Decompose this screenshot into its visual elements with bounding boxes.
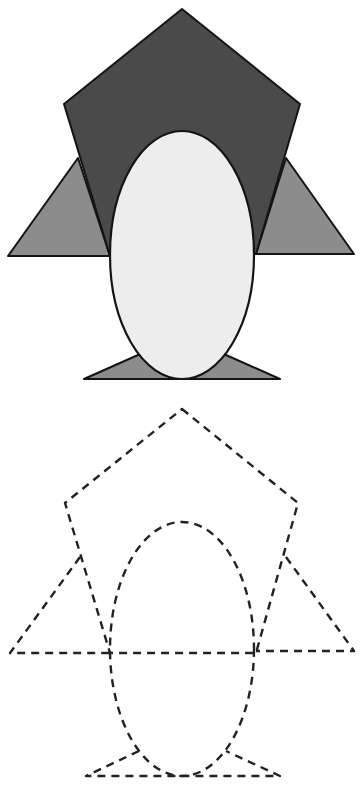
penguin-shapes-diagram	[0, 0, 364, 786]
tracing-left-wing-triangle	[10, 557, 110, 653]
tracing-belly-oval	[110, 522, 254, 776]
tracing-penguin	[0, 0, 364, 786]
tracing-feet-triangle	[86, 751, 280, 776]
tracing-body-pentagon	[65, 409, 298, 653]
